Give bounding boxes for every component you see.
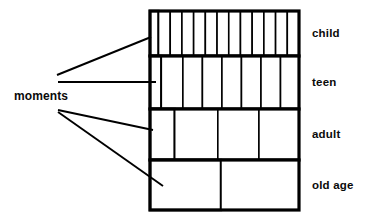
moment-cell-teen-3 xyxy=(183,56,203,109)
stage-row-child xyxy=(150,11,299,56)
moment-cell-teen-4 xyxy=(202,56,222,109)
moment-cell-child-10 xyxy=(252,11,264,56)
moment-cell-teen-2 xyxy=(161,56,183,109)
moment-cell-teen-8 xyxy=(281,56,299,109)
stage-label-adult: adult xyxy=(312,129,340,141)
moment-cell-adult-3 xyxy=(218,109,259,160)
moment-cell-adult-4 xyxy=(259,109,299,160)
moments-label: moments xyxy=(14,90,68,102)
stage-label-teen: teen xyxy=(312,77,336,89)
moment-cell-teen-6 xyxy=(241,56,261,109)
moment-cell-child-3 xyxy=(170,11,182,56)
moment-cell-child-9 xyxy=(240,11,252,56)
diagram-canvas: moments child teen adult old age xyxy=(0,0,378,221)
leader-line-child xyxy=(57,37,151,75)
moment-cell-adult-1 xyxy=(150,109,175,160)
moment-cell-child-13 xyxy=(287,11,299,56)
moment-cell-child-2 xyxy=(159,11,171,56)
moment-cell-teen-7 xyxy=(261,56,281,109)
leader-lines xyxy=(57,37,163,186)
moment-cell-old-age-2 xyxy=(221,160,299,210)
stage-row-adult xyxy=(150,109,299,160)
leader-line-adult xyxy=(58,110,153,130)
moment-cell-child-8 xyxy=(229,11,241,56)
moment-cell-child-12 xyxy=(276,11,288,56)
moment-cell-child-6 xyxy=(205,11,217,56)
moment-cell-child-7 xyxy=(217,11,229,56)
moment-cell-teen-5 xyxy=(222,56,242,109)
leader-line-old-age xyxy=(58,112,163,186)
stage-row-teen xyxy=(150,56,299,109)
stage-label-child: child xyxy=(312,28,340,40)
stage-grid xyxy=(150,11,299,210)
moment-cell-adult-2 xyxy=(175,109,218,160)
moment-cell-child-4 xyxy=(182,11,194,56)
stage-label-old-age: old age xyxy=(312,180,354,192)
stage-row-old-age xyxy=(150,160,299,210)
moment-cell-child-11 xyxy=(264,11,276,56)
moment-cell-child-5 xyxy=(194,11,206,56)
